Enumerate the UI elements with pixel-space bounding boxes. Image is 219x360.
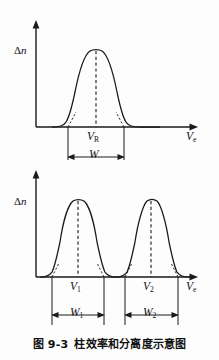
figure-drawing <box>0 0 219 360</box>
bottom-peak-width-1-label: W1 <box>70 307 83 319</box>
figure-container: Δn Ve VR W Δn Ve V1 V2 W1 W2 图 9-3柱效率和分离… <box>0 0 219 360</box>
top-y-axis-label: Δn <box>14 45 27 56</box>
bottom-chart-group <box>33 170 198 325</box>
top-peak-width-label: W <box>89 149 99 161</box>
bottom-retention-volume-2-label: V2 <box>143 281 154 293</box>
bottom-peak-width-2-label: W2 <box>143 307 156 319</box>
figure-caption-text: 柱效率和分离度示意图 <box>74 338 186 351</box>
top-retention-volume-label: VR <box>87 131 99 143</box>
top-x-axis-label: Ve <box>186 131 196 143</box>
bottom-peak-2-curve <box>116 200 190 278</box>
bottom-y-axis-arrowhead <box>33 170 40 179</box>
figure-caption: 图 9-3柱效率和分离度示意图 <box>0 335 219 351</box>
bottom-y-axis-label: Δn <box>14 196 27 207</box>
top-chart-group <box>33 20 198 160</box>
top-peak-curve <box>52 50 160 128</box>
bottom-retention-volume-1-label: V1 <box>70 281 81 293</box>
figure-caption-number: 图 9-3 <box>33 338 69 351</box>
top-y-axis-arrowhead <box>33 20 40 29</box>
bottom-x-axis-label: Ve <box>186 281 196 293</box>
